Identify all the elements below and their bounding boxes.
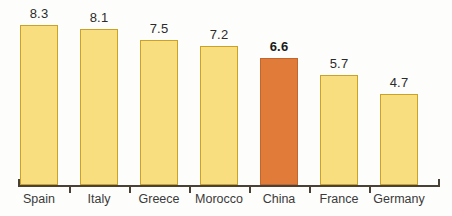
- bar-slot-5[interactable]: [316, 25, 362, 185]
- category-label-china: China: [248, 192, 310, 206]
- bar-germany[interactable]: [380, 94, 418, 185]
- value-label-spain: 8.3: [16, 6, 62, 21]
- value-label-china: 6.6: [256, 39, 302, 54]
- value-label-morocco: 7.2: [196, 27, 242, 42]
- bar-morocco[interactable]: [200, 46, 238, 185]
- category-label-germany: Germany: [368, 192, 430, 206]
- x-axis-line: [18, 185, 440, 187]
- bar-slot-0[interactable]: [16, 25, 62, 185]
- value-label-italy: 8.1: [76, 10, 122, 25]
- x-axis-end-cap: [438, 179, 440, 187]
- category-label-greece: Greece: [128, 192, 190, 206]
- bar-slot-1[interactable]: [76, 25, 122, 185]
- x-axis-start-cap: [18, 179, 20, 187]
- bar-slot-3[interactable]: [196, 25, 242, 185]
- bar-france[interactable]: [320, 75, 358, 185]
- bar-chart: 8.3 8.1 7.5 7.2 6.6 5.7 4.7 Spain Italy …: [0, 0, 452, 216]
- category-label-italy: Italy: [68, 192, 130, 206]
- bar-slot-6[interactable]: [376, 25, 422, 185]
- plot-area: 8.3 8.1 7.5 7.2 6.6 5.7 4.7 Spain Italy …: [0, 0, 452, 216]
- category-label-france: France: [308, 192, 370, 206]
- value-label-germany: 4.7: [376, 75, 422, 90]
- bar-greece[interactable]: [140, 40, 178, 185]
- bar-china[interactable]: [260, 58, 298, 185]
- value-label-france: 5.7: [316, 56, 362, 71]
- category-label-morocco: Morocco: [188, 192, 250, 206]
- bar-italy[interactable]: [80, 29, 118, 185]
- bar-spain[interactable]: [20, 25, 58, 185]
- value-label-greece: 7.5: [136, 21, 182, 36]
- category-label-spain: Spain: [8, 192, 70, 206]
- bar-slot-2[interactable]: [136, 25, 182, 185]
